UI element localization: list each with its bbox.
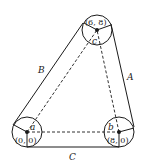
angle-label-c: c <box>92 36 97 46</box>
segment-label-c: C <box>69 152 76 162</box>
angle-label-a: a <box>30 122 35 132</box>
segment-label-a: A <box>126 72 134 82</box>
segment-label-b: B <box>37 65 45 75</box>
radius-b-right <box>119 128 134 132</box>
radius-a-left <box>14 125 27 132</box>
center-dot-a <box>25 130 29 134</box>
dashed-line-ac <box>27 30 97 132</box>
coord-label-a: (0, 0) <box>15 136 37 145</box>
belt-diagram: (6, 8) (0, 0) (8, 0) c a b B A C <box>0 0 142 165</box>
coord-label-c: (6, 8) <box>85 18 107 27</box>
angle-label-b: b <box>108 122 114 132</box>
center-dot-c <box>95 28 99 32</box>
center-dot-b <box>117 130 121 134</box>
belt-segment-b-line <box>13 23 83 125</box>
coord-label-b: (8, 0) <box>107 136 129 145</box>
